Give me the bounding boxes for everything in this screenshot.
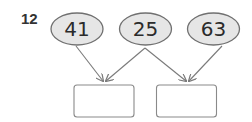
arrow-41-to-box1	[76, 46, 103, 81]
input-ellipse-1: 41	[51, 13, 103, 45]
arrow-25-to-box2	[145, 48, 186, 81]
number-diagram: 41 25 63	[0, 0, 252, 122]
arrows	[76, 46, 222, 81]
input-ellipse-3: 63	[188, 13, 240, 45]
arrow-63-to-box2	[189, 46, 222, 81]
input-label-2: 25	[133, 17, 158, 41]
input-ellipse-2: 25	[120, 13, 172, 45]
answer-box-1[interactable]	[74, 85, 134, 117]
arrow-25-to-box1	[106, 48, 145, 81]
input-label-1: 41	[64, 17, 89, 41]
input-label-3: 63	[201, 17, 226, 41]
answer-box-2[interactable]	[157, 85, 217, 117]
